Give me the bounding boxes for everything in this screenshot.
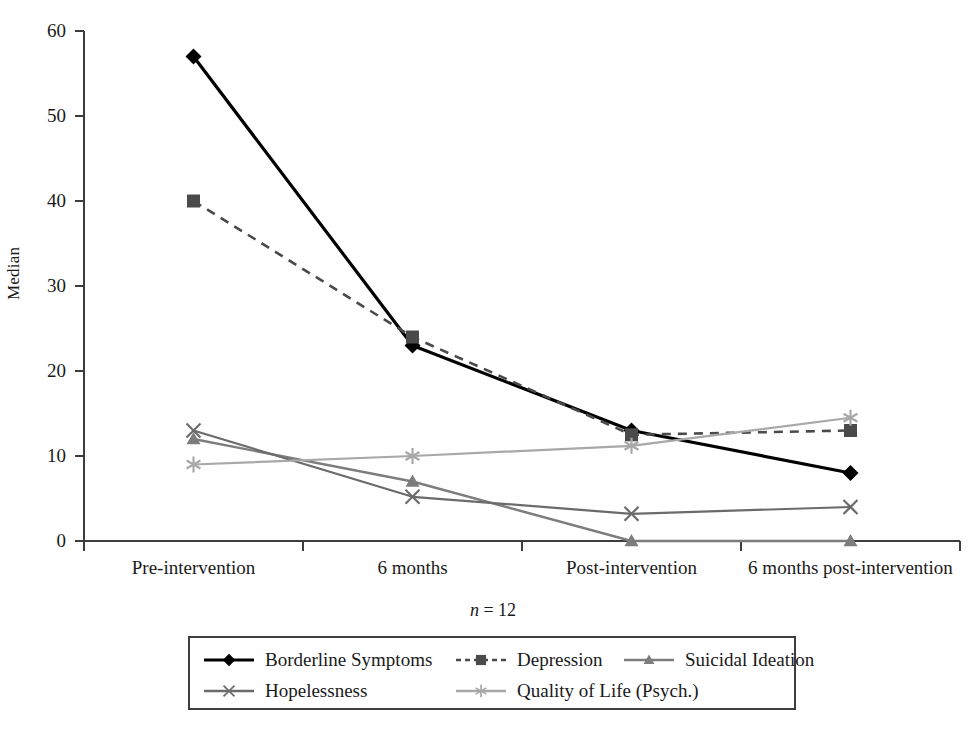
y-tick-label: 40 [14, 191, 66, 210]
series-hopelessness [187, 424, 858, 521]
series-quality-of-life-psych [187, 410, 858, 473]
legend-item[interactable]: Quality of Life (Psych.) [452, 681, 699, 701]
series-depression [187, 195, 857, 442]
y-tick-label: 30 [14, 276, 66, 295]
legend-swatch-asterisk [452, 681, 510, 701]
series-suicidal-ideation [187, 432, 858, 546]
marker-square [187, 195, 200, 208]
legend-item[interactable]: Depression [452, 650, 602, 670]
marker-diamond [223, 653, 235, 665]
legend-swatch-cross [200, 681, 258, 701]
chart-figure: Median 6050403020100 Pre-intervention6 m… [0, 0, 976, 734]
series-line [194, 201, 851, 435]
sample-size-symbol: n [470, 600, 479, 620]
legend-item[interactable]: Hopelessness [200, 681, 367, 701]
legend-label: Depression [517, 650, 602, 670]
marker-square [406, 331, 419, 344]
marker-square [844, 424, 857, 437]
y-tick-label: 20 [14, 361, 66, 380]
legend-label: Borderline Symptoms [265, 650, 432, 670]
series-borderline-symptoms [186, 49, 859, 482]
sample-size-value: = 12 [479, 600, 516, 620]
y-tick-label: 10 [14, 446, 66, 465]
legend-swatch-diamond [200, 650, 258, 670]
legend-item[interactable]: Suicidal Ideation [620, 650, 814, 670]
marker-triangle [187, 432, 201, 444]
sample-size-note: n = 12 [403, 600, 583, 621]
x-tick-label: 6 months post-intervention [721, 556, 976, 579]
y-tick-label: 50 [14, 106, 66, 125]
marker-diamond [843, 465, 859, 481]
legend-swatch-square [452, 650, 510, 670]
series-line [194, 57, 851, 474]
legend-label: Suicidal Ideation [685, 650, 814, 670]
chart-legend: Borderline SymptomsDepressionSuicidal Id… [188, 636, 796, 710]
chart-plot-area [0, 0, 976, 734]
legend-label: Hopelessness [265, 681, 367, 701]
y-tick-label: 60 [14, 21, 66, 40]
legend-swatch-triangle [620, 650, 678, 670]
marker-square [476, 654, 486, 664]
series-line [194, 431, 851, 514]
legend-row: Borderline SymptomsDepressionSuicidal Id… [200, 644, 784, 675]
y-tick-label: 0 [14, 531, 66, 550]
legend-label: Quality of Life (Psych.) [517, 681, 699, 701]
legend-row: HopelessnessQuality of Life (Psych.) [200, 675, 784, 706]
legend-item[interactable]: Borderline Symptoms [200, 650, 432, 670]
